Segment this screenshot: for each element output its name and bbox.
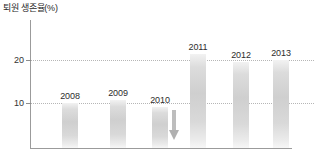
bar-label-2009: 2009	[100, 89, 136, 98]
y-tick-label-20-wrap: 20	[0, 56, 24, 65]
bar-2008	[62, 103, 78, 148]
bar-2011	[190, 54, 206, 148]
bar-label-2008: 2008	[52, 92, 88, 101]
bar-label-2013: 2013	[263, 49, 299, 58]
bar-2013	[273, 60, 289, 148]
y-tick-mark-10	[26, 103, 31, 104]
bar-2012	[233, 62, 249, 148]
y-tick-label-20: 20	[0, 56, 24, 65]
down-arrow-icon	[168, 110, 180, 141]
gridline-20	[31, 60, 314, 61]
x-axis-line	[30, 148, 292, 149]
y-axis-title: 퇴원 생존율(%)	[3, 2, 58, 14]
y-axis-line	[30, 20, 31, 148]
bar-label-2012: 2012	[223, 51, 259, 60]
bar-2010	[152, 107, 168, 148]
bar-chart: 퇴원 생존율(%) 20 10 2008 2009 2010 2011 2012…	[0, 0, 319, 161]
y-tick-label-10-wrap: 10	[0, 99, 24, 108]
bar-2009	[110, 100, 126, 148]
bar-label-2011: 2011	[180, 43, 216, 52]
bar-label-2010: 2010	[142, 96, 178, 105]
y-tick-mark-20	[26, 60, 31, 61]
y-tick-label-10: 10	[0, 99, 24, 108]
